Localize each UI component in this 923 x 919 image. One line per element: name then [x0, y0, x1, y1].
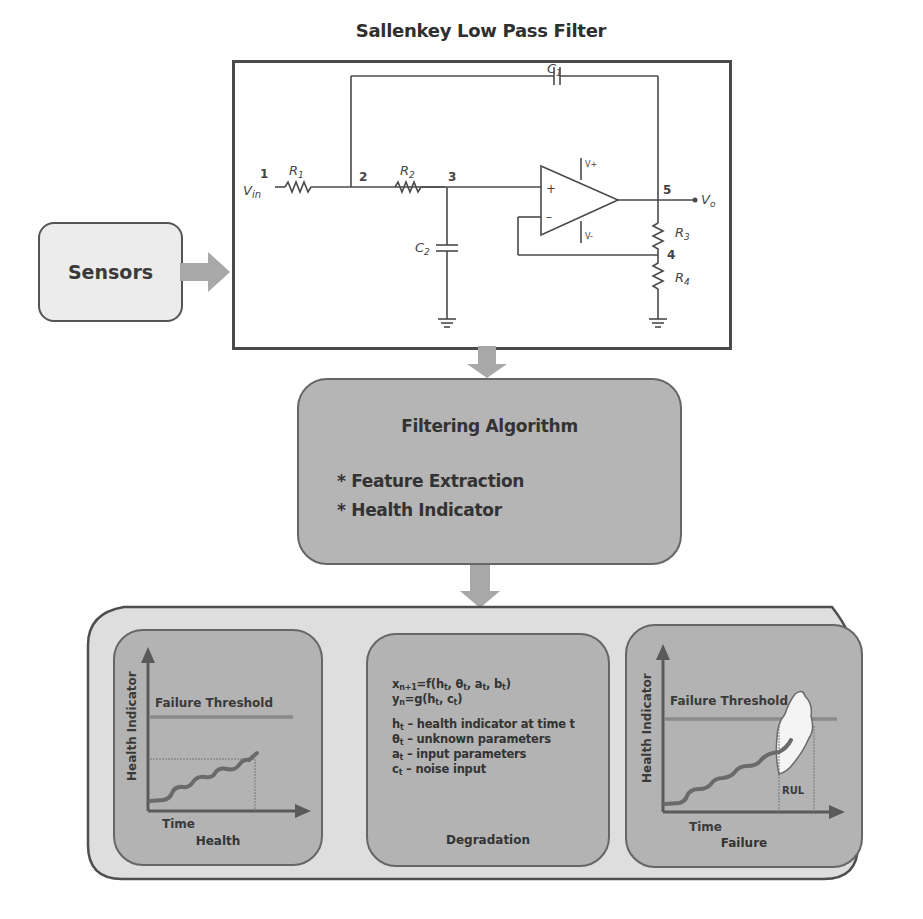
svg-text:C1: C1 [547, 63, 562, 78]
label-r4-sub: 4 [684, 277, 690, 287]
health-curve [665, 740, 791, 804]
panel-degradation: xn+1=f(ht, θt, at, bt) yn=g(ht, ct) ht –… [366, 633, 610, 867]
sensors-label: Sensors [68, 261, 153, 283]
filtering-item-feature-extraction: * Feature Extraction [337, 467, 524, 496]
health-chart: Failure Threshold Health Indicator Time [115, 631, 321, 831]
degradation-equations: xn+1=f(ht, θt, at, bt) yn=g(ht, ct) ht –… [392, 677, 575, 777]
filtering-item-health-indicator: * Health Indicator [337, 496, 524, 525]
arrow-filter-to-prognostics [460, 563, 500, 608]
svg-text:R1: R1 [289, 163, 304, 180]
right-arrow-icon [180, 252, 230, 292]
circuit-schematic: Vin 1 R1 2 R2 3 C1 C2 + – V+ V- 5 Vo R3 … [235, 63, 729, 347]
label-node1: 1 [260, 167, 268, 181]
panel-failure: Failure Threshold Health Indicator RUL T… [625, 624, 863, 868]
definition-item: at – input parameters [392, 747, 575, 762]
label-vminus: V- [585, 232, 593, 241]
threshold-label: Failure Threshold [155, 696, 273, 710]
y-axis-label: Health Indicator [125, 671, 139, 781]
label-c2-sub: 2 [424, 247, 430, 257]
svg-text:Vo: Vo [701, 192, 716, 209]
filtering-title: Filtering Algorithm [299, 416, 680, 436]
y-axis-arrow-icon [141, 647, 155, 663]
measurement-equation: yn=g(ht, ct) [392, 692, 575, 707]
label-r1: R [289, 163, 298, 178]
label-r2: R [400, 163, 409, 178]
diagram-title: Sallenkey Low Pass Filter [232, 20, 730, 41]
x-axis-label: Time [162, 817, 195, 831]
threshold-label: Failure Threshold [670, 694, 788, 708]
svg-text:C2: C2 [415, 240, 430, 257]
down-arrow-icon [460, 563, 500, 608]
label-r1-sub: 1 [298, 170, 304, 180]
sensors-box: Sensors [38, 222, 183, 322]
panel-health: Failure Threshold Health Indicator Time … [113, 629, 323, 866]
svg-text:R2: R2 [400, 163, 415, 180]
output-terminal [693, 198, 698, 203]
resistor-r3 [653, 223, 663, 255]
y-axis-arrow-icon [656, 644, 670, 660]
svg-text:Vin: Vin [243, 183, 261, 200]
svg-text:R3: R3 [675, 225, 690, 242]
x-axis-label: Time [689, 820, 722, 834]
label-vplus: V+ [585, 160, 597, 169]
label-minus: – [546, 210, 552, 224]
health-caption: Health [115, 834, 321, 848]
failure-chart: Failure Threshold Health Indicator RUL T… [627, 626, 861, 836]
resistor-r4 [653, 255, 663, 289]
x-axis-arrow-icon [295, 804, 311, 818]
filtering-algorithm-box: Filtering Algorithm * Feature Extraction… [297, 378, 682, 565]
down-arrow-icon [467, 346, 507, 378]
sallen-key-circuit: Vin 1 R1 2 R2 3 C1 C2 + – V+ V- 5 Vo R3 … [232, 60, 732, 350]
arrow-circuit-to-filter [467, 346, 507, 380]
degradation-caption: Degradation [368, 833, 608, 847]
failure-caption: Failure [627, 836, 861, 850]
label-vin-sub: in [252, 189, 261, 200]
label-r2-sub: 2 [409, 170, 415, 180]
arrow-sensors-to-circuit [180, 250, 234, 294]
label-vo-sub: o [710, 199, 716, 209]
svg-text:R4: R4 [675, 270, 690, 287]
label-r3-sub: 3 [684, 232, 690, 242]
filtering-items: * Feature Extraction * Health Indicator [337, 467, 524, 525]
label-node4: 4 [667, 248, 675, 262]
state-equation: xn+1=f(ht, θt, at, bt) [392, 677, 575, 692]
resistor-r1 [285, 182, 311, 192]
label-node5: 5 [663, 183, 671, 197]
op-amp [541, 166, 618, 235]
x-axis-arrow-icon [829, 805, 845, 819]
label-r3: R [675, 225, 684, 240]
definition-item: θt – unknown parameters [392, 732, 575, 747]
label-node2: 2 [359, 170, 367, 184]
definition-item: ht – health indicator at time t [392, 717, 575, 732]
rul-label: RUL [782, 785, 805, 796]
label-plus: + [546, 182, 556, 196]
label-r4: R [675, 270, 684, 285]
health-curve [150, 753, 257, 801]
definition-item: ct – noise input [392, 762, 575, 777]
y-axis-label: Health Indicator [640, 673, 654, 783]
label-c1-sub: 1 [556, 68, 562, 78]
label-node3: 3 [448, 170, 456, 184]
